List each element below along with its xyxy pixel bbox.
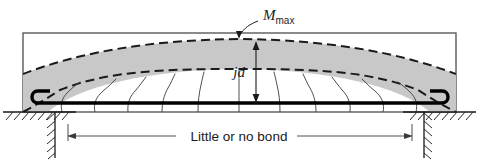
lever-arm-label: jd — [231, 64, 245, 80]
moment-label: Mmax — [262, 7, 294, 26]
beam-diagram: Mmax jd — [0, 0, 479, 163]
right-ground-hatching — [410, 112, 473, 120]
right-wall-hatching — [424, 113, 432, 159]
hatched-support-left — [3, 112, 76, 159]
hatched-support-right — [403, 112, 476, 159]
span-note-label: Little or no bond — [191, 129, 288, 144]
left-wall-hatching — [47, 113, 55, 159]
diagram-canvas: Mmax jd — [0, 0, 479, 163]
left-ground-hatching — [6, 112, 69, 120]
moment-subscript: max — [276, 15, 295, 26]
